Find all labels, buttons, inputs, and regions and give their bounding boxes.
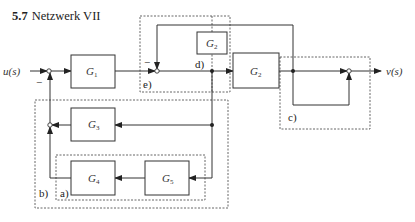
summing-junction-output bbox=[347, 69, 351, 73]
branch-point-d bbox=[210, 69, 214, 73]
output-signal-label: v(s) bbox=[386, 65, 403, 78]
summing-junction-e bbox=[155, 69, 159, 73]
summing-junction-input bbox=[47, 69, 51, 73]
region-d-label: d) bbox=[195, 58, 205, 71]
branch-point-g3 bbox=[210, 123, 214, 127]
input-signal-label: u(s) bbox=[3, 65, 20, 78]
region-a-label: a) bbox=[60, 187, 69, 200]
branch-point-g2-out bbox=[291, 69, 295, 73]
minus-sign-e: − bbox=[144, 56, 150, 68]
region-e-label: e) bbox=[143, 78, 152, 91]
summing-junction-feedback bbox=[48, 123, 52, 127]
minus-sign-input: − bbox=[36, 76, 42, 88]
region-c-label: c) bbox=[288, 111, 297, 124]
block-diagram: G1 G2 G2 G3 G4 G5 u(s) v(s) − − e) d) c)… bbox=[0, 0, 415, 222]
region-b-label: b) bbox=[39, 187, 49, 200]
